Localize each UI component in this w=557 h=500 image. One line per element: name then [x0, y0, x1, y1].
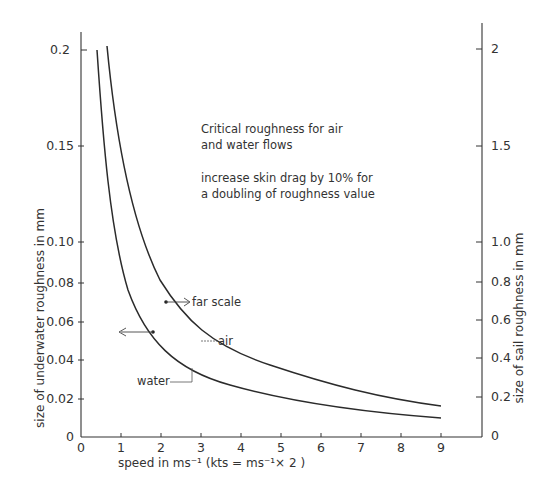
y-right-tick: 2: [491, 41, 499, 56]
x-tick: 3: [197, 440, 205, 455]
y-left-axis-title: size of underwater roughness in mm: [33, 208, 47, 428]
far-scale-marker: far scale: [164, 295, 241, 309]
left-tick-labels: 0 0.02 0.04 0.06 0.08 0.10 0.15 0.2: [46, 42, 74, 444]
x-tick: 2: [157, 440, 165, 455]
roughness-chart: 0 0.02 0.04 0.06 0.08 0.10 0.15 0.2 0 0.…: [0, 0, 557, 500]
x-ticks: [121, 433, 441, 437]
right-ticks: [476, 49, 482, 397]
x-tick: 0: [77, 440, 85, 455]
y-left-tick: 0: [66, 429, 74, 444]
y-left-tick: 0.08: [46, 275, 74, 290]
chart-annotations: Critical roughness for air and water flo…: [201, 122, 375, 201]
x-axis-title: speed in ms⁻¹ (kts = ms⁻¹× 2 ): [118, 456, 305, 470]
air-curve: [107, 46, 441, 406]
air-label-group: air: [201, 334, 233, 348]
far-scale-label: far scale: [192, 295, 241, 309]
left-scale-marker: [119, 328, 155, 336]
y-right-tick: 0: [491, 428, 499, 443]
x-tick-labels: 0 1 2 3 4 5 6 7 8 9: [77, 440, 445, 455]
x-tick: 4: [237, 440, 245, 455]
y-right-axis-title: size of sail roughness in mm: [512, 233, 526, 404]
x-tick: 1: [117, 440, 125, 455]
x-tick: 7: [357, 440, 365, 455]
y-right-tick: 0.4: [491, 350, 511, 365]
water-label: water: [137, 374, 170, 388]
y-left-tick: 0.06: [46, 314, 74, 329]
y-right-tick: 0.2: [491, 389, 511, 404]
y-left-tick: 0.02: [46, 391, 74, 406]
y-left-tick: 0.04: [46, 352, 74, 367]
y-right-tick: 1.5: [491, 138, 511, 153]
note-line-1: increase skin drag by 10% for: [201, 171, 373, 185]
y-left-tick: 0.10: [46, 234, 74, 249]
y-left-tick: 0.2: [50, 42, 70, 57]
note-line-2: a doubling of roughness value: [201, 187, 375, 201]
y-right-tick: 1.0: [491, 234, 511, 249]
water-label-group: water: [137, 368, 192, 388]
x-tick: 5: [277, 440, 285, 455]
x-tick: 9: [437, 440, 445, 455]
air-label: air: [218, 334, 233, 348]
y-left-tick: 0.15: [46, 138, 74, 153]
x-tick: 8: [397, 440, 405, 455]
title-line-1: Critical roughness for air: [201, 122, 343, 136]
curves: [97, 46, 441, 418]
x-tick: 6: [317, 440, 325, 455]
title-line-2: and water flows: [201, 138, 292, 152]
water-curve: [97, 50, 441, 418]
y-right-tick: 0.6: [491, 312, 511, 327]
y-right-tick: 0.8: [491, 274, 511, 289]
right-tick-labels: 0 0.2 0.4 0.6 0.8 1.0 1.5 2: [491, 41, 511, 443]
left-ticks: [78, 50, 87, 399]
